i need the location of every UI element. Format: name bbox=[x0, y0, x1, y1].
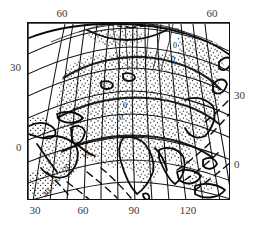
contour-label-0-c: 0 bbox=[175, 28, 179, 36]
axis-tick-label-right-1: 0 bbox=[234, 159, 240, 170]
axis-tick-label-bottom-0: 30 bbox=[30, 205, 41, 216]
axis-tick-label-left-1: 0 bbox=[16, 142, 22, 153]
axis-tick-label-bottom-1: 60 bbox=[78, 205, 89, 216]
figure-panel: 60 60 30 0 30 0 30 60 90 120 bbox=[0, 0, 256, 229]
contour-label-0-b: 0 bbox=[119, 114, 123, 122]
contour-label-0-d: 0 bbox=[173, 42, 177, 50]
axis-tick-label-bottom-3: 120 bbox=[180, 205, 197, 216]
axis-tick-label-left-0: 30 bbox=[10, 62, 21, 73]
contour-label-0-e: 0 bbox=[171, 56, 175, 64]
axis-tick-label-top-1: 60 bbox=[207, 8, 218, 19]
map-plot-area: 0 0 0 0 0 10 20 30 40 bbox=[27, 22, 230, 200]
axis-tick-label-right-0: 30 bbox=[234, 90, 245, 101]
axis-tick-label-bottom-2: 90 bbox=[129, 205, 140, 216]
contour-label-0-a: 0 bbox=[123, 102, 127, 110]
map-graticule-and-coastlines bbox=[27, 22, 230, 200]
axis-tick-label-top-0: 60 bbox=[57, 8, 68, 19]
